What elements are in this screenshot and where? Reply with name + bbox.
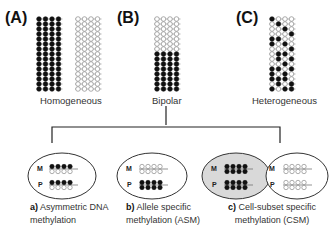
subtype-a-line2: methylation bbox=[30, 215, 76, 225]
subtype-a-prefix: a) bbox=[30, 202, 38, 212]
subtype-b-line2: methylation (ASM) bbox=[126, 215, 200, 225]
panel-c-heterogeneous-grid bbox=[269, 17, 296, 92]
caption-heterogeneous: Heterogeneous bbox=[252, 95, 317, 106]
caption-bipolar: Bipolar bbox=[152, 95, 182, 106]
subtype-c-line1: Cell-subset specific bbox=[239, 202, 317, 212]
caption-homogeneous: Homogeneous bbox=[40, 95, 102, 106]
ellipse-b-m-label: M bbox=[126, 165, 132, 172]
ellipse-c2-p-label: P bbox=[270, 181, 275, 188]
panel-a-methylated-grid bbox=[36, 17, 63, 92]
subtype-a-caption: a) Asymmetric DNA methylation bbox=[30, 201, 109, 227]
subtype-c-caption: c) Cell-subset specific methylation (CSM… bbox=[228, 201, 316, 227]
panel-c-label: (C) bbox=[236, 9, 258, 27]
ellipse-c1-p-label: P bbox=[212, 181, 217, 188]
diagram-canvas bbox=[0, 0, 330, 231]
ellipse-csm-unmethylated-cells bbox=[266, 153, 328, 199]
ellipse-b-p-label: P bbox=[127, 181, 132, 188]
panel-b-label: (B) bbox=[117, 9, 139, 27]
subtype-b-line1: Allele specific bbox=[137, 202, 192, 212]
subtype-a-line1: Asymmetric DNA bbox=[40, 202, 109, 212]
subtype-bracket bbox=[52, 127, 280, 143]
subtype-b-prefix: b) bbox=[126, 202, 135, 212]
ellipse-asymmetric bbox=[28, 153, 96, 199]
panel-a-label: (A) bbox=[5, 9, 27, 27]
subtype-c-line2: methylation (CSM) bbox=[235, 215, 310, 225]
ellipse-c2-m-label: M bbox=[269, 165, 275, 172]
ellipse-a-m-label: M bbox=[37, 165, 43, 172]
ellipse-asm bbox=[117, 153, 187, 199]
ellipse-a-p-label: P bbox=[38, 181, 43, 188]
panel-b-bipolar-grid bbox=[154, 17, 181, 92]
subtype-b-caption: b) Allele specific methylation (ASM) bbox=[126, 201, 200, 227]
ellipse-csm-methylated-cells bbox=[202, 153, 270, 199]
ellipse-c1-m-label: M bbox=[211, 165, 217, 172]
subtype-c-prefix: c) bbox=[228, 202, 236, 212]
panel-a-unmethylated-grid bbox=[75, 17, 102, 92]
